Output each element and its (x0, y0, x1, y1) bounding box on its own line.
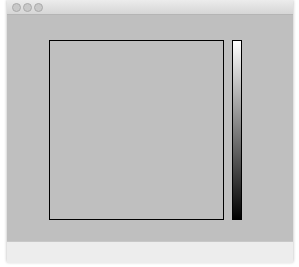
close-button[interactable] (12, 3, 21, 12)
navigation-toolbar (7, 241, 293, 263)
colorbar (232, 40, 242, 220)
title-bar (7, 0, 293, 15)
confusion-matrix-heatmap (49, 40, 224, 220)
figure-canvas[interactable] (7, 15, 293, 241)
figure-window (7, 0, 293, 262)
minimize-button[interactable] (23, 3, 32, 12)
maximize-button[interactable] (34, 3, 43, 12)
